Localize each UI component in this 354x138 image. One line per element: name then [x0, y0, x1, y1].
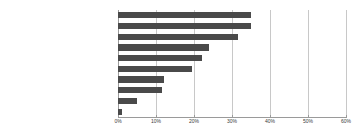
bar: [118, 23, 251, 29]
x-tick-mark: [156, 115, 157, 118]
x-tick-label: 60%: [326, 118, 354, 124]
bar: [118, 109, 122, 115]
x-tick-mark: [270, 115, 271, 118]
x-tick-mark: [118, 115, 119, 118]
gridline-60: [346, 10, 347, 117]
x-tick-label: 10%: [136, 118, 176, 124]
bar: [118, 87, 162, 93]
x-tick-mark: [232, 115, 233, 118]
x-tick-mark: [194, 115, 195, 118]
x-tick-mark: [308, 115, 309, 118]
horizontal-bar-chart: ビジネス誌（オンライン記事を含む）その他のオンライン記事新聞記事書籍その他の雑誌…: [0, 0, 354, 138]
bar: [118, 55, 202, 61]
bar: [118, 76, 164, 82]
x-tick-label: 50%: [288, 118, 328, 124]
bar: [118, 66, 192, 72]
bar: [118, 34, 238, 40]
x-tick-label: 40%: [250, 118, 290, 124]
bar-row: 書籍: [118, 42, 346, 53]
x-tick-label: 0%: [98, 118, 138, 124]
bar-row: ビジネス誌（オンライン記事を含む）: [118, 10, 346, 21]
x-axis-tick-labels: 0%10%20%30%40%50%60%: [118, 118, 346, 136]
bar: [118, 12, 251, 18]
bar: [118, 44, 209, 50]
bar-row: 新聞記事: [118, 31, 346, 42]
bar: [118, 98, 137, 104]
bar-row: 動画サイト: [118, 96, 346, 107]
bar-row: ブログ: [118, 85, 346, 96]
bar-row: その他の雑誌（オンライン記事を含む）: [118, 53, 346, 64]
bar-row: テレビ: [118, 64, 346, 75]
x-tick-mark: [346, 115, 347, 118]
x-tick-label: 20%: [174, 118, 214, 124]
plot-area: ビジネス誌（オンライン記事を含む）その他のオンライン記事新聞記事書籍その他の雑誌…: [118, 10, 346, 117]
bar-row: SNS: [118, 74, 346, 85]
x-tick-label: 30%: [212, 118, 252, 124]
bar-row: その他のオンライン記事: [118, 21, 346, 32]
